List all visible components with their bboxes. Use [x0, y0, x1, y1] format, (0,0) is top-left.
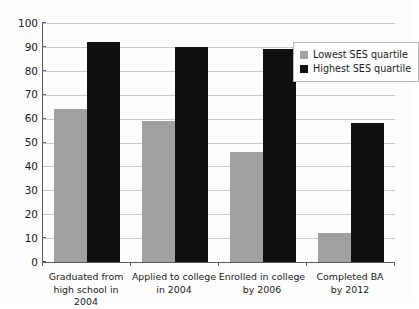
x-axis-label-1-line-2: high school in 2004 — [42, 284, 130, 309]
legend-label-lowest-ses: Lowest SES quartile — [313, 50, 408, 60]
y-tick-label-80: 80 — [25, 66, 42, 77]
x-axis: Graduated fromhigh school in 2004Applied… — [42, 262, 394, 302]
legend-swatch-icon-lowest-ses — [300, 51, 308, 59]
legend-item-lowest-ses: Lowest SES quartile — [300, 48, 411, 62]
x-axis-label-4-line-1: Completed BA — [317, 271, 384, 282]
x-axis-label-4-line-2: by 2012 — [306, 284, 394, 297]
x-axis-label-3-line-2: by 2006 — [218, 284, 306, 297]
y-axis: 1009080706050403020100 — [0, 23, 42, 262]
y-tick-label-90: 90 — [25, 42, 42, 53]
chart-legend: Lowest SES quartile Highest SES quartile — [293, 42, 419, 82]
legend-item-highest-ses: Highest SES quartile — [300, 62, 411, 76]
bar-pair — [142, 23, 208, 262]
x-axis-label-1: Graduated fromhigh school in 2004 — [42, 262, 130, 302]
bar-lowest-ses-1 — [54, 109, 87, 262]
x-axis-label-1-line-1: Graduated from — [49, 271, 124, 282]
x-axis-label-4: Completed BAby 2012 — [306, 262, 394, 302]
bar-highest-ses-3 — [263, 49, 296, 262]
y-tick-label-50: 50 — [25, 137, 42, 148]
x-axis-label-3: Enrolled in collegeby 2006 — [218, 262, 306, 302]
y-tick-label-70: 70 — [25, 89, 42, 100]
y-tick-label-60: 60 — [25, 113, 42, 124]
x-tick-mark-1 — [130, 262, 131, 266]
bar-highest-ses-2 — [175, 47, 208, 262]
x-tick-mark-4 — [394, 262, 395, 266]
bar-lowest-ses-3 — [230, 152, 263, 262]
x-axis-label-3-line-1: Enrolled in college — [219, 271, 305, 282]
bar-pair — [230, 23, 296, 262]
bar-group-1 — [43, 23, 131, 262]
x-axis-label-2-line-1: Applied to college — [132, 271, 216, 282]
y-tick-label-20: 20 — [25, 209, 42, 220]
y-tick-label-30: 30 — [25, 185, 42, 196]
y-tick-label-0: 0 — [31, 257, 42, 268]
bar-highest-ses-4 — [351, 123, 384, 262]
x-tick-mark-2 — [218, 262, 219, 266]
y-tick-label-10: 10 — [25, 233, 42, 244]
bar-group-2 — [131, 23, 219, 262]
bar-pair — [54, 23, 120, 262]
bar-highest-ses-1 — [87, 42, 120, 262]
legend-label-highest-ses: Highest SES quartile — [313, 64, 411, 74]
x-tick-mark-3 — [306, 262, 307, 266]
x-tick-mark-0 — [42, 262, 43, 266]
bar-lowest-ses-2 — [142, 121, 175, 262]
legend-swatch-icon-highest-ses — [300, 65, 308, 73]
y-tick-label-100: 100 — [18, 18, 42, 29]
x-axis-label-2-line-2: in 2004 — [130, 284, 218, 297]
y-tick-label-40: 40 — [25, 161, 42, 172]
x-axis-label-2: Applied to collegein 2004 — [130, 262, 218, 302]
bar-lowest-ses-4 — [318, 233, 351, 262]
